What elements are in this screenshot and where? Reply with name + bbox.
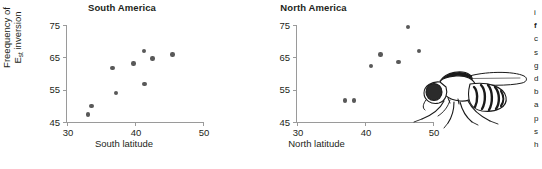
data-point <box>142 82 146 86</box>
y-tick-label-65: 65 <box>49 52 60 63</box>
panel-title-south-america: South America <box>2 2 242 13</box>
x-tick-30: 30 <box>67 122 68 126</box>
caption-line: f <box>534 19 542 32</box>
caption-line: p <box>534 112 542 125</box>
y-axis-title-suffix: inversion <box>12 11 23 52</box>
y-tick-label-75: 75 <box>279 20 290 31</box>
data-point <box>369 64 373 68</box>
data-point <box>89 104 93 108</box>
data-point <box>86 112 90 116</box>
x-tick-label-40: 40 <box>126 127 146 138</box>
drosophila-fly-icon <box>410 57 532 133</box>
data-point <box>343 98 347 102</box>
x-tick-label-30: 30 <box>58 127 78 138</box>
caption-line: h <box>534 138 542 151</box>
caption-line: a <box>534 98 542 111</box>
x-tick-30: 30 <box>297 122 298 126</box>
data-point <box>378 52 382 56</box>
x-tick-label-40: 40 <box>356 127 376 138</box>
y-tick-65: 65 <box>293 57 297 58</box>
data-point <box>396 60 400 64</box>
y-axis-title: Freequency of Est inversion <box>1 0 24 91</box>
panel-title-north-america: North America <box>231 2 396 13</box>
caption-line: g <box>534 59 542 72</box>
x-tick-label-50: 50 <box>194 127 214 138</box>
y-tick-55: 55 <box>63 90 67 91</box>
data-point <box>114 91 118 95</box>
data-point <box>131 61 135 65</box>
y-tick-label-55: 55 <box>49 84 60 95</box>
y-tick-75: 75 <box>293 25 297 26</box>
panel-north-america: North America 75 65 55 45 30 40 50 <box>240 0 405 169</box>
caption-line: s <box>534 46 542 59</box>
caption-text-column: ifcsgdbapsh <box>534 6 542 166</box>
caption-line: i <box>534 6 542 19</box>
data-point <box>150 56 154 60</box>
y-axis-title-symbol: E <box>12 57 23 63</box>
panel-south-america: South America Freequency of Est inversio… <box>0 0 240 169</box>
y-tick-label-75: 75 <box>49 20 60 31</box>
y-axis-title-line2: Est inversion <box>12 0 24 91</box>
caption-line: d <box>534 72 542 85</box>
data-point <box>170 52 174 56</box>
y-tick-label-65: 65 <box>279 52 290 63</box>
figure-root: South America Freequency of Est inversio… <box>0 0 542 169</box>
data-point <box>142 49 146 53</box>
plot-area-south-america: 75 65 55 45 30 40 50 <box>66 25 203 123</box>
y-tick-55: 55 <box>293 90 297 91</box>
data-point <box>406 25 410 29</box>
x-tick-40: 40 <box>365 122 366 126</box>
data-point <box>352 98 356 102</box>
y-axis-title-subscript: st <box>17 52 24 57</box>
x-axis-title-north-america: North latitude <box>234 138 399 149</box>
y-tick-label-45: 45 <box>49 117 60 128</box>
y-axis-title-line1: Freequency of <box>1 7 12 68</box>
y-tick-label-55: 55 <box>279 84 290 95</box>
data-point <box>110 66 114 70</box>
caption-line: b <box>534 85 542 98</box>
data-point <box>417 49 421 53</box>
caption-line: c <box>534 32 542 45</box>
x-tick-40: 40 <box>135 122 136 126</box>
y-tick-75: 75 <box>63 25 67 26</box>
x-tick-50: 50 <box>203 122 204 126</box>
x-tick-label-30: 30 <box>288 127 308 138</box>
caption-line: s <box>534 125 542 138</box>
x-axis-title-south-america: South latitude <box>4 138 244 149</box>
y-tick-65: 65 <box>63 57 67 58</box>
y-tick-label-45: 45 <box>279 117 290 128</box>
